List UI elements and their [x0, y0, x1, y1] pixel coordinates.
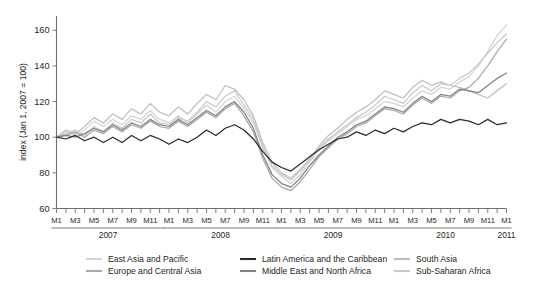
series-line-east-asia-and-pacific — [57, 25, 507, 184]
series-lines — [57, 25, 507, 191]
legend-label: Middle East and North Africa — [262, 266, 371, 276]
x-tick-label: M1 — [276, 216, 287, 225]
x-tick-label: M9 — [464, 216, 475, 225]
x-tick-label: M11 — [256, 216, 270, 225]
legend-label: East Asia and Pacific — [108, 254, 189, 264]
legend-label: Europe and Central Asia — [108, 266, 201, 276]
x-tick-label: M11 — [368, 216, 382, 225]
y-tick-label: 60 — [39, 204, 49, 214]
x-tick-label: M5 — [89, 216, 100, 225]
year-group-label: 2007 — [99, 230, 118, 240]
series-line-sub-saharan-africa — [57, 34, 507, 180]
chart-figure: index (Jan 1, 2007 = 100) 60801001201401… — [0, 0, 538, 298]
x-tick-label: M9 — [351, 216, 362, 225]
x-tick-label: M7 — [220, 216, 231, 225]
y-tick-label: 140 — [34, 61, 49, 71]
y-axis-title: index (Jan 1, 2007 = 100) — [18, 63, 28, 161]
year-group-label: 2010 — [436, 230, 455, 240]
x-tick-label: M1 — [51, 216, 62, 225]
x-tick-label: M1 — [389, 216, 400, 225]
x-tick-label: M5 — [314, 216, 325, 225]
x-tick-label: M7 — [445, 216, 456, 225]
x-axis-ticks — [57, 209, 507, 214]
chart-legend: East Asia and PacificEurope and Central … — [86, 254, 491, 276]
y-tick-label: 80 — [39, 168, 49, 178]
legend-label: Latin America and the Caribbean — [262, 254, 387, 264]
x-tick-label: M5 — [201, 216, 212, 225]
y-tick-label: 160 — [34, 25, 49, 35]
y-axis-title-group: index (Jan 1, 2007 = 100) — [18, 63, 28, 161]
legend-label: Sub-Saharan Africa — [416, 266, 491, 276]
x-tick-label: M9 — [126, 216, 137, 225]
x-tick-label: M3 — [182, 216, 193, 225]
x-tick-label: M3 — [295, 216, 306, 225]
year-group-label: 2009 — [324, 230, 343, 240]
year-group-label: 2011 — [497, 230, 515, 240]
y-tick-label: 120 — [34, 97, 49, 107]
x-tick-label: M11 — [481, 216, 495, 225]
year-group-label: 2008 — [211, 230, 230, 240]
x-tick-label: M5 — [426, 216, 437, 225]
x-tick-label: M1 — [164, 216, 175, 225]
x-tick-label: M7 — [107, 216, 118, 225]
y-tick-label: 100 — [34, 132, 49, 142]
x-axis-tick-labels: M1M3M5M7M9M11M1M3M5M7M9M11M1M3M5M7M9M11M… — [51, 216, 512, 225]
line-chart-canvas: index (Jan 1, 2007 = 100) 60801001201401… — [0, 0, 538, 298]
x-tick-label: M11 — [143, 216, 157, 225]
y-axis-ticks: 6080100120140160 — [34, 25, 56, 213]
x-tick-label: M1 — [501, 216, 512, 225]
x-axis-year-groups: 20072008200920102011 — [52, 228, 516, 240]
legend-label: South Asia — [416, 254, 457, 264]
x-tick-label: M9 — [239, 216, 250, 225]
x-tick-label: M3 — [407, 216, 418, 225]
x-tick-label: M3 — [70, 216, 81, 225]
x-tick-label: M7 — [332, 216, 343, 225]
